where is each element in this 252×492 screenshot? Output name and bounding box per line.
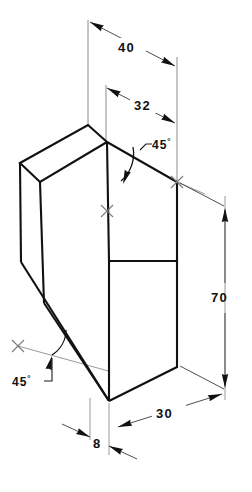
dimension-40-arrow-left: [89, 19, 104, 31]
dimension-8-arrow-left: [76, 428, 91, 440]
angle-45-lower-label: 45°: [12, 374, 32, 389]
angle-45-upper-label: 45°: [152, 137, 172, 152]
dimension-8-label: 8: [93, 436, 101, 451]
angle-45-lower-value: 45: [12, 375, 27, 389]
dimension-40-arrow-right: [161, 57, 176, 69]
dimension-70-projector-top: [180, 183, 224, 206]
center-cross-lower-left: [12, 340, 24, 352]
dimension-8: 8: [62, 424, 137, 459]
angle-45-upper-value: 45: [152, 138, 167, 152]
dimension-30-label: 30: [156, 406, 173, 421]
angle-45-lower-degree-symbol: °: [27, 374, 31, 383]
angle-45-upper-leader: [140, 144, 152, 150]
dimension-32-label: 32: [134, 98, 151, 113]
angle-45-upper-degree-symbol: °: [167, 137, 171, 146]
dimension-32-arrow-left: [106, 85, 121, 97]
dimension-30: 30: [117, 391, 223, 430]
solid-block: [20, 125, 177, 401]
face-right-upper: [107, 142, 177, 261]
reference-line-lower-left: [18, 346, 112, 372]
dimension-70: 70: [180, 183, 228, 389]
dimension-30-arrow-right: [208, 391, 223, 401]
face-right-side: [109, 261, 177, 401]
dimension-30-arrow-left: [117, 420, 132, 430]
angle-45-lower: 45°: [12, 330, 66, 389]
dimension-70-projector-bottom: [180, 366, 224, 389]
dimension-32-arrow-right: [161, 114, 176, 126]
dimension-70-arrow-top: [222, 208, 228, 222]
dimension-70-arrow-bottom: [222, 374, 228, 388]
dimension-8-arrow-right: [108, 443, 123, 455]
technical-drawing-canvas: 40 32 45° 70: [0, 0, 252, 492]
angle-45-lower-arrow: [46, 355, 56, 370]
dimension-32: 32: [106, 85, 177, 126]
dimension-40: 40: [89, 19, 177, 69]
dimension-70-label: 70: [211, 290, 228, 305]
dimension-40-label: 40: [118, 40, 135, 55]
edge-chamfer-inner: [44, 303, 109, 401]
edge-left-vertical: [20, 163, 21, 262]
